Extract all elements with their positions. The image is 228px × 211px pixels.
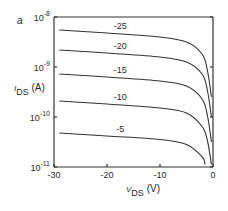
curve--10	[59, 101, 211, 165]
plot-frame	[54, 17, 213, 167]
curve-label: -25	[114, 21, 127, 31]
curve-label: -15	[114, 65, 127, 75]
curve--20	[59, 50, 211, 117]
data-curves	[59, 30, 211, 165]
y-tick-label: 10-8	[34, 10, 50, 23]
x-axis-label: VDS (V)	[126, 183, 160, 198]
y-tick-label: 10-10	[30, 110, 50, 123]
curve-label: -5	[116, 124, 124, 134]
iv-characteristics-chart: 10-810-910-1010-11 -30-20-100 -25-20-15-…	[0, 0, 228, 211]
y-tick-label: 10-9	[34, 60, 50, 73]
curve--15	[59, 74, 211, 142]
curve-label: -20	[114, 41, 127, 51]
curve--5	[59, 133, 205, 165]
x-tick-label: -10	[153, 170, 166, 180]
x-tick-label: -30	[47, 170, 60, 180]
panel-label: a	[17, 15, 23, 26]
y-axis-label: IDS (A)	[14, 82, 45, 97]
curve-label: -10	[114, 92, 127, 102]
x-tick-label: 0	[210, 170, 215, 180]
x-tick-label: -20	[100, 170, 113, 180]
